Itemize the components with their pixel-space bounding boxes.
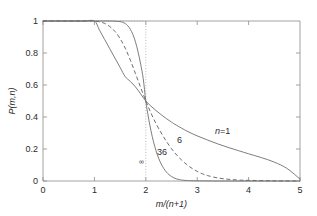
curve-label-36: 36 [157, 147, 167, 157]
data-curves [43, 20, 300, 181]
y-tick-1: 0.2 [25, 144, 38, 154]
y-tick-3: 0.6 [25, 80, 38, 90]
y-tick-labels: 0 0.2 0.4 0.6 0.8 1 [25, 16, 38, 186]
y-tick-4: 0.8 [25, 48, 38, 58]
x-axis-ticks [43, 21, 300, 181]
curve-annotations: n=1 6 36 ∞ [139, 126, 230, 165]
curve-n-6 [43, 21, 300, 181]
x-tick-2: 2 [143, 185, 148, 195]
curve-n-36 [43, 21, 300, 181]
axes-frame [43, 21, 300, 181]
chart-svg: 0 1 2 3 4 5 0 0.2 0.4 0.6 0.8 1 m/(n+1) … [0, 0, 317, 216]
curve-label-infinity: ∞ [139, 158, 144, 165]
y-tick-0: 0 [33, 176, 38, 186]
curve-label-n1: n=1 [215, 126, 230, 136]
y-axis-title: P(m,n) [7, 87, 17, 114]
y-axis-ticks [43, 21, 300, 181]
x-tick-4: 4 [246, 185, 251, 195]
x-tick-3: 3 [195, 185, 200, 195]
curve-n-1 [43, 20, 300, 179]
y-tick-2: 0.4 [25, 112, 38, 122]
x-tick-5: 5 [297, 185, 302, 195]
curve-n-infinity [120, 21, 146, 181]
x-tick-1: 1 [92, 185, 97, 195]
x-tick-0: 0 [40, 185, 45, 195]
x-tick-labels: 0 1 2 3 4 5 [40, 185, 302, 195]
y-tick-5: 1 [33, 16, 38, 26]
curve-label-6: 6 [177, 135, 182, 145]
figure-canvas: 0 1 2 3 4 5 0 0.2 0.4 0.6 0.8 1 m/(n+1) … [0, 0, 317, 216]
x-axis-title: m/(n+1) [156, 199, 187, 209]
